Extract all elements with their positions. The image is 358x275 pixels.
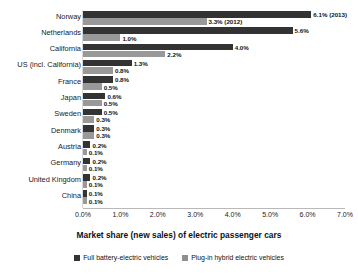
category-label: Norway (0, 13, 81, 20)
chart-legend: Full battery-electric vehiclesPlug-in hy… (0, 254, 358, 261)
legend-swatch-icon (182, 255, 188, 261)
bar-phev (83, 83, 102, 90)
axis-tick: 2.0% (150, 211, 166, 218)
bar-phev (83, 132, 94, 139)
bar-bev (83, 158, 90, 165)
axis-tick: 1.0% (112, 211, 128, 218)
bar-value-label: 0.1% (89, 166, 103, 172)
bar-bev (83, 93, 105, 100)
legend-item[interactable]: Full battery-electric vehicles (74, 254, 168, 261)
bar-value-label: 0.6% (107, 94, 121, 100)
category-label: Sweden (0, 110, 81, 117)
axis-tick: 3.0% (187, 211, 203, 218)
bar-value-label: 0.3% (96, 133, 110, 139)
axis-tick: 6.0% (300, 211, 316, 218)
bar-phev (83, 18, 207, 25)
bar-phev (83, 181, 87, 188)
bar-phev (83, 197, 87, 204)
category-label: Netherlands (0, 29, 81, 36)
axis-tick: 5.0% (262, 211, 278, 218)
category-label: China (0, 192, 81, 199)
bar-value-label: 0.5% (104, 101, 118, 107)
bar-value-label: 0.1% (89, 199, 103, 205)
bar-phev (83, 149, 87, 156)
bar-bev (83, 27, 293, 34)
axis-title: Market share (new sales) of electric pas… (0, 230, 358, 240)
bar-value-label: 4.0% (235, 45, 249, 51)
bar-bev (83, 60, 132, 67)
bar-bev (83, 141, 90, 148)
bar-bev (83, 109, 102, 116)
bar-bev (83, 174, 90, 181)
legend-item[interactable]: Plug-in hybrid electric vehicles (182, 254, 284, 261)
axis-tick: 7.0% (337, 211, 353, 218)
bar-value-label: 0.1% (89, 150, 103, 156)
legend-label: Full battery-electric vehicles (83, 254, 168, 261)
category-label: US (incl. California) (0, 61, 81, 68)
category-label: California (0, 45, 81, 52)
category-label: Denmark (0, 127, 81, 134)
bar-bev (83, 76, 113, 83)
bar-value-label: 0.1% (89, 191, 103, 197)
bar-value-label: 3.3% (2012) (209, 19, 243, 25)
bar-value-label: 1.0% (122, 36, 136, 42)
category-label: France (0, 78, 81, 85)
category-axis-line (83, 208, 345, 209)
legend-label: Plug-in hybrid electric vehicles (191, 254, 284, 261)
bar-value-label: 2.2% (167, 52, 181, 58)
category-label: Japan (0, 94, 81, 101)
bar-value-label: 6.1% (2013) (313, 12, 347, 18)
axis-tick: 4.0% (225, 211, 241, 218)
bar-bev (83, 125, 94, 132)
bar-value-label: 0.1% (89, 182, 103, 188)
bar-value-label: 0.8% (115, 77, 129, 83)
category-label: United Kingdom (0, 176, 81, 183)
category-label: Austria (0, 143, 81, 150)
bar-value-label: 0.5% (104, 85, 118, 91)
category-label: Germany (0, 159, 81, 166)
bar-chart: Norway6.1% (2013)3.3% (2012)Netherlands5… (0, 0, 358, 275)
axis-tick: 0.0% (75, 211, 91, 218)
bar-phev (83, 51, 165, 58)
bar-value-label: 0.3% (96, 117, 110, 123)
bar-bev (83, 190, 87, 197)
bar-phev (83, 116, 94, 123)
bar-bev (83, 44, 233, 51)
bar-phev (83, 165, 87, 172)
bar-phev (83, 34, 120, 41)
bar-phev (83, 67, 113, 74)
bar-value-label: 1.3% (134, 61, 148, 67)
bar-value-label: 0.8% (115, 68, 129, 74)
bar-value-label: 0.2% (92, 143, 106, 149)
legend-swatch-icon (74, 255, 80, 261)
bar-bev (83, 11, 311, 18)
bar-phev (83, 100, 102, 107)
bar-value-label: 5.6% (295, 28, 309, 34)
